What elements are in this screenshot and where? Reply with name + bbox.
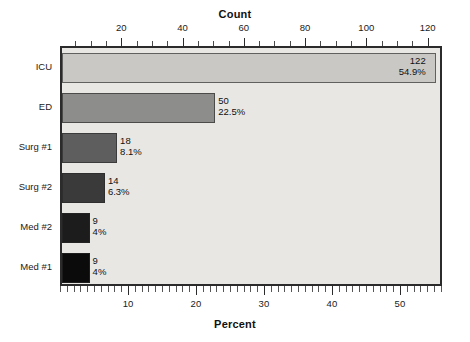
bottom-axis-minor-tick xyxy=(94,286,95,292)
category-label: Med #2 xyxy=(0,221,52,232)
bar-value-label: 94% xyxy=(93,215,107,237)
bottom-axis-minor-tick xyxy=(339,286,340,292)
bottom-axis-minor-tick xyxy=(318,286,319,292)
bottom-axis-minor-tick xyxy=(189,286,190,292)
bottom-axis-minor-tick xyxy=(230,286,231,292)
bottom-axis-minor-tick xyxy=(298,286,299,292)
top-axis-tick-label: 40 xyxy=(177,22,188,33)
top-axis-tick-label: 20 xyxy=(116,22,127,33)
bar xyxy=(62,173,105,203)
top-axis-tick xyxy=(305,38,306,46)
top-axis-minor-tick xyxy=(137,41,138,46)
bar xyxy=(62,213,90,243)
bottom-axis-minor-tick xyxy=(237,286,238,292)
top-axis-minor-tick xyxy=(198,41,199,46)
bar-percent-value: 4% xyxy=(93,226,107,237)
bar-percent-value: 54.9% xyxy=(356,66,426,77)
top-axis-minor-tick xyxy=(397,41,398,46)
bottom-axis-tick xyxy=(128,286,129,295)
bottom-axis-tick-label: 40 xyxy=(327,298,338,309)
bar-count-value: 50 xyxy=(218,95,245,106)
bar xyxy=(62,93,215,123)
bottom-axis-minor-tick xyxy=(216,286,217,292)
top-axis-minor-tick xyxy=(382,41,383,46)
bar-percent-value: 22.5% xyxy=(218,106,245,117)
bottom-axis-minor-tick xyxy=(359,286,360,292)
bottom-axis-minor-tick xyxy=(155,286,156,292)
bottom-axis-minor-tick xyxy=(414,286,415,292)
bottom-axis-minor-tick xyxy=(142,286,143,292)
bottom-axis-minor-tick xyxy=(250,286,251,292)
bar-percent-value: 8.1% xyxy=(120,146,142,157)
bottom-axis-minor-tick xyxy=(305,286,306,292)
top-axis-minor-tick xyxy=(351,41,352,46)
bottom-axis-minor-tick xyxy=(169,286,170,292)
bottom-axis-tick-label: 50 xyxy=(395,298,406,309)
bottom-axis-minor-tick xyxy=(393,286,394,292)
bottom-axis-minor-tick xyxy=(346,286,347,292)
bottom-axis-minor-tick xyxy=(434,286,435,292)
bar-count-value: 9 xyxy=(93,255,107,266)
bottom-axis-minor-tick xyxy=(135,286,136,292)
bar-percent-value: 6.3% xyxy=(108,186,130,197)
top-axis-minor-tick xyxy=(106,41,107,46)
top-axis-minor-tick xyxy=(91,41,92,46)
bottom-axis-minor-tick xyxy=(87,286,88,292)
bottom-axis-minor-tick xyxy=(325,286,326,292)
top-axis-minor-tick xyxy=(152,41,153,46)
bottom-axis-minor-tick xyxy=(427,286,428,292)
top-axis-tick-label: 120 xyxy=(420,22,436,33)
bar-value-label: 94% xyxy=(93,255,107,277)
bottom-axis-tick xyxy=(332,286,333,295)
bottom-axis-minor-tick xyxy=(148,286,149,292)
bottom-axis-minor-tick xyxy=(420,286,421,292)
plot-area xyxy=(60,46,442,286)
bar-count-value: 9 xyxy=(93,215,107,226)
bottom-axis-tick xyxy=(400,286,401,295)
top-axis-minor-tick xyxy=(274,41,275,46)
top-axis-tick xyxy=(366,38,367,46)
top-axis-tick xyxy=(121,38,122,46)
bottom-axis-minor-tick xyxy=(121,286,122,292)
top-axis-minor-tick xyxy=(259,41,260,46)
category-label: ICU xyxy=(0,61,52,72)
bottom-axis-tick xyxy=(264,286,265,295)
bottom-axis-minor-tick xyxy=(162,286,163,292)
category-label: ED xyxy=(0,101,52,112)
bottom-axis-minor-tick xyxy=(257,286,258,292)
bar xyxy=(62,253,90,283)
bottom-axis-minor-tick xyxy=(108,286,109,292)
category-label: Surg #1 xyxy=(0,141,52,152)
bottom-axis-minor-tick xyxy=(114,286,115,292)
bar-value-label: 5022.5% xyxy=(218,95,245,117)
top-axis-minor-tick xyxy=(167,41,168,46)
bottom-axis-minor-tick xyxy=(60,286,61,292)
top-axis-title: Count xyxy=(0,8,470,20)
bottom-axis-minor-tick xyxy=(244,286,245,292)
bottom-axis-minor-tick xyxy=(380,286,381,292)
bottom-axis-minor-tick xyxy=(74,286,75,292)
top-axis-tick xyxy=(183,38,184,46)
bottom-axis-tick-label: 30 xyxy=(259,298,270,309)
bottom-axis-minor-tick xyxy=(278,286,279,292)
top-axis-minor-tick xyxy=(320,41,321,46)
plot-inner xyxy=(62,48,440,284)
bottom-axis-minor-tick xyxy=(203,286,204,292)
bottom-axis-minor-tick xyxy=(366,286,367,292)
pareto-bar-chart: Count 20406080100120 1020304050 Percent … xyxy=(0,0,470,342)
bottom-axis-minor-tick xyxy=(67,286,68,292)
top-axis-minor-tick xyxy=(213,41,214,46)
bar-count-value: 122 xyxy=(356,55,426,66)
bottom-axis-tick xyxy=(196,286,197,295)
bottom-axis-tick-label: 20 xyxy=(191,298,202,309)
bottom-axis-title: Percent xyxy=(0,318,470,330)
bottom-axis-minor-tick xyxy=(373,286,374,292)
top-axis-minor-tick xyxy=(290,41,291,46)
bar-count-value: 18 xyxy=(120,135,142,146)
bar-value-label: 12254.9% xyxy=(356,55,426,77)
top-axis-minor-tick xyxy=(75,41,76,46)
top-axis-tick xyxy=(244,38,245,46)
top-axis-minor-tick xyxy=(412,41,413,46)
bottom-axis-minor-tick xyxy=(101,286,102,292)
bottom-axis-tick-label: 10 xyxy=(123,298,134,309)
